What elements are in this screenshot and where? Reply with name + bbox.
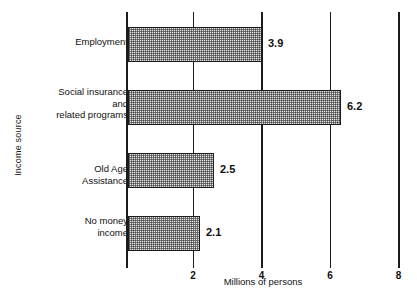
bar-value-no-money-income: 2.1 bbox=[206, 226, 221, 238]
bar-no-money-income bbox=[128, 216, 200, 251]
xtick-mark-6 bbox=[330, 260, 332, 268]
category-label-line: income bbox=[85, 227, 128, 239]
category-label-no-money-income: No money income bbox=[85, 215, 128, 238]
bar-chart: Income source Employment Social insuranc… bbox=[0, 0, 417, 295]
x-axis-title: Millions of persons bbox=[126, 276, 400, 287]
category-label-employment: Employment bbox=[75, 36, 128, 48]
category-label-line: Employment bbox=[75, 36, 128, 48]
category-label-line: Old Age bbox=[82, 163, 128, 175]
gridline-8 bbox=[398, 12, 400, 260]
category-label-old-age-assistance: Old Age Assistance bbox=[82, 163, 128, 186]
xtick-mark-4 bbox=[261, 260, 263, 268]
category-label-line: related programs bbox=[56, 109, 128, 121]
y-axis-title: Income source bbox=[13, 90, 23, 200]
category-label-social-insurance: Social insurance and related programs bbox=[56, 86, 128, 121]
plot-area: 3.9 6.2 2.5 2.1 2 4 6 8 bbox=[126, 12, 400, 260]
xtick-mark-2 bbox=[193, 260, 195, 268]
bar-employment bbox=[128, 27, 262, 62]
bar-value-social-insurance: 6.2 bbox=[347, 100, 362, 112]
xtick-mark-8 bbox=[398, 260, 400, 268]
category-label-line: and bbox=[56, 98, 128, 110]
bar-social-insurance bbox=[128, 90, 341, 125]
xtick-mark-0 bbox=[126, 260, 128, 268]
bar-value-employment: 3.9 bbox=[268, 37, 283, 49]
category-label-line: No money bbox=[85, 215, 128, 227]
bar-old-age-assistance bbox=[128, 153, 214, 188]
category-label-line: Assistance bbox=[82, 175, 128, 187]
bar-value-old-age-assistance: 2.5 bbox=[220, 163, 235, 175]
gridline-6 bbox=[330, 12, 332, 260]
category-label-line: Social insurance bbox=[56, 86, 128, 98]
